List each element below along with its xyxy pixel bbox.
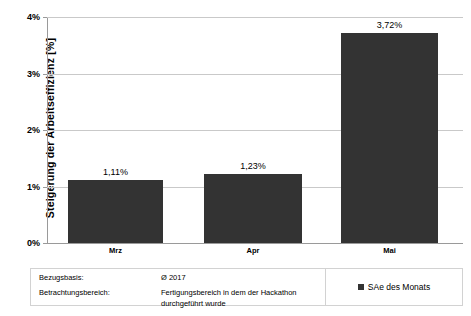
legend-item-sae-des-monats[interactable]: SAe des Monats — [358, 282, 430, 292]
gridline-4: 4% — [47, 17, 463, 18]
info-table: Bezugsbasis: Ø 2017 Betrachtungsbereich:… — [31, 269, 326, 305]
y-tick-mark-2 — [43, 130, 47, 131]
bar-mrz[interactable]: 1,11% Mrz — [68, 180, 163, 243]
legend-swatch-icon — [358, 284, 364, 290]
info-value-betrachtungsbereich: Fertigungsbereich in dem der Hackathon d… — [161, 288, 325, 310]
info-key-betrachtungsbereich: Betrachtungsbereich: — [39, 288, 161, 310]
legend-label: SAe des Monats — [368, 282, 430, 292]
bar-value-apr: 1,23% — [240, 161, 266, 171]
x-tick-label-mrz: Mrz — [109, 246, 122, 255]
bar-value-mai: 3,72% — [377, 20, 403, 30]
y-tick-label-1: 1% — [27, 182, 40, 192]
legend: SAe des Monats — [326, 269, 462, 305]
info-box: Bezugsbasis: Ø 2017 Betrachtungsbereich:… — [30, 268, 463, 306]
plot-area: 4% 3% 2% 1% 0% 1,11% Mrz 1,23% Apr 3,72% — [47, 17, 463, 243]
bar-value-mrz: 1,11% — [103, 167, 128, 177]
info-row-betrachtungsbereich: Betrachtungsbereich: Fertigungsbereich i… — [39, 288, 325, 310]
bar-apr[interactable]: 1,23% Apr — [204, 174, 302, 244]
x-tick-label-apr: Apr — [247, 246, 260, 255]
bar-mai[interactable]: 3,72% Mai — [341, 33, 438, 243]
info-value-bezugsbasis: Ø 2017 — [161, 273, 325, 284]
y-tick-mark-3 — [43, 74, 47, 75]
y-tick-label-0: 0% — [27, 238, 40, 248]
y-tick-label-4: 4% — [27, 12, 40, 22]
y-tick-label-3: 3% — [27, 69, 40, 79]
gridline-0-baseline: 0% — [47, 243, 463, 244]
info-row-bezugsbasis: Bezugsbasis: Ø 2017 — [39, 273, 325, 284]
y-tick-mark-4 — [43, 17, 47, 18]
y-tick-mark-1 — [43, 187, 47, 188]
bar-chart-figure: Steigerung der Arbeitseffizienz [%] 4% 3… — [0, 0, 471, 316]
y-tick-mark-0 — [43, 243, 47, 244]
x-tick-label-mai: Mai — [383, 246, 396, 255]
info-key-bezugsbasis: Bezugsbasis: — [39, 273, 161, 284]
y-tick-label-2: 2% — [27, 125, 40, 135]
